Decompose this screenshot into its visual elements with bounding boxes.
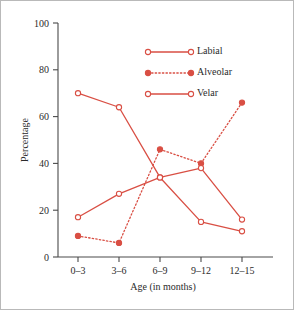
y-tick-label-100: 100: [34, 18, 49, 29]
legend-entry-alveolar[interactable]: Alveolar: [145, 66, 232, 77]
y-tick-label-80: 80: [39, 64, 49, 75]
x-tick-label-1: 3–6: [112, 265, 127, 276]
x-tick-label-3: 9–12: [191, 265, 211, 276]
y-tick-label-60: 60: [39, 111, 49, 122]
y-tick-label-0: 0: [44, 252, 49, 263]
line-chart: 0 20 40 60 80 100 0–3 3–6 6–9 9–12 12–15…: [1, 1, 294, 310]
data-point[interactable]: [239, 229, 244, 234]
data-point[interactable]: [157, 175, 162, 180]
y-axis-ticks: 0 20 40 60 80 100: [34, 18, 58, 263]
legend-marker: [188, 91, 193, 96]
chart-legend: LabialAlveolarVelar: [145, 45, 232, 98]
legend-entry-labial[interactable]: Labial: [145, 45, 222, 56]
data-point[interactable]: [157, 147, 162, 152]
x-tick-label-0: 0–3: [71, 265, 86, 276]
data-point[interactable]: [75, 233, 80, 238]
y-axis-title: Percentage: [19, 118, 30, 162]
series-alveolar: [75, 100, 244, 246]
series-layer: [75, 91, 244, 246]
x-axis-title: Age (in months): [130, 281, 196, 293]
data-point[interactable]: [75, 91, 80, 96]
legend-marker: [145, 70, 150, 75]
legend-marker: [145, 49, 150, 54]
legend-entry-velar[interactable]: Velar: [145, 87, 218, 98]
x-axis-ticks: 0–3 3–6 6–9 9–12 12–15: [71, 257, 255, 276]
data-point[interactable]: [116, 191, 121, 196]
figure-frame: 0 20 40 60 80 100 0–3 3–6 6–9 9–12 12–15…: [0, 0, 294, 310]
legend-marker: [145, 91, 150, 96]
data-point[interactable]: [198, 165, 203, 170]
data-point[interactable]: [239, 217, 244, 222]
legend-label-velar: Velar: [197, 87, 219, 98]
legend-label-labial: Labial: [197, 45, 223, 56]
y-tick-label-20: 20: [39, 205, 49, 216]
x-tick-label-2: 6–9: [153, 265, 168, 276]
data-point[interactable]: [75, 215, 80, 220]
data-point[interactable]: [116, 240, 121, 245]
legend-label-alveolar: Alveolar: [197, 66, 233, 77]
series-velar: [75, 165, 244, 222]
data-point[interactable]: [239, 100, 244, 105]
legend-marker: [188, 49, 193, 54]
x-tick-label-4: 12–15: [230, 265, 255, 276]
y-tick-label-40: 40: [39, 158, 49, 169]
data-point[interactable]: [198, 219, 203, 224]
series-labial: [75, 91, 244, 234]
series-line-alveolar: [78, 103, 242, 243]
series-line-labial: [78, 93, 242, 231]
data-point[interactable]: [116, 105, 121, 110]
legend-marker: [188, 70, 193, 75]
